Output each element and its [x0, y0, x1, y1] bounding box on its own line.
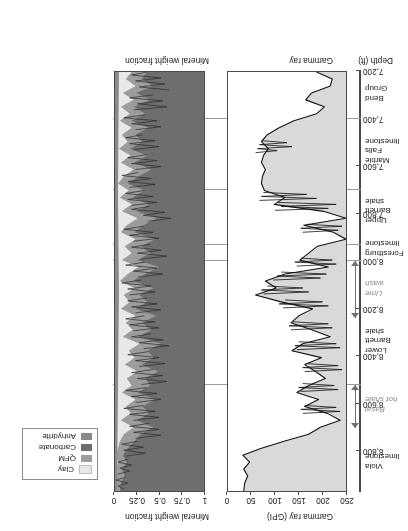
formation-label-upper-barnett-shale: Upper Barnett shale: [365, 197, 408, 226]
legend-label-clay: Clay: [58, 465, 74, 474]
arrow-head-down-icon: [352, 261, 360, 266]
formation-label-marble-falls-limestone: Marble Falls limestone: [365, 137, 408, 166]
legend-item-carbonate[interactable]: Carbonate: [28, 442, 92, 453]
legend-swatch-clay: [79, 465, 92, 474]
arrow-head-up-icon: [352, 313, 360, 318]
depth-tick: [356, 355, 361, 356]
depth-tick: [356, 165, 361, 166]
depth-tick-label: 7,400: [363, 115, 397, 124]
mineral-xtick: [204, 492, 205, 495]
bracket-stem: [355, 385, 356, 428]
mineral-xtick-label: 1: [190, 496, 220, 505]
legend-item-clay[interactable]: Clay: [28, 464, 92, 475]
formation-label-bend-group: Bend Group: [365, 84, 408, 103]
gamma-ray-xtick: [226, 492, 227, 495]
depth-tick: [356, 213, 361, 214]
arrow-head-down-icon: [352, 385, 360, 390]
legend-swatch-qfm: [81, 455, 92, 462]
formation-label-viola-limestone: Viola limestone: [365, 452, 408, 471]
interval-bracket-basal-hot-shale: [351, 385, 360, 428]
depth-tick: [356, 450, 361, 451]
gamma-ray-xtick: [274, 492, 275, 495]
bracket-stem: [355, 261, 356, 318]
formation-label-forestburg-limestone: Forestburg limestone: [365, 239, 408, 258]
annotation-label-basal-hot-shale: Basal hot shale: [365, 395, 408, 414]
gamma-ray-track: [227, 71, 347, 492]
depth-axis-title: Depth (ft): [358, 56, 393, 65]
interval-bracket-lime-wash: [351, 261, 360, 318]
mineral-axis-label: Mineral weight fraction: [125, 512, 209, 521]
formation-label-lower-barnett-shale: Lower Barnett shale: [365, 327, 408, 356]
legend-swatch-anhydrite: [81, 433, 92, 440]
depth-tick-label: 7,200: [363, 67, 397, 76]
depth-tick-label: 8,200: [363, 305, 397, 314]
legend: Clay QFM Carbonate Anhydrite: [22, 428, 98, 480]
depth-tick-label: 8,000: [363, 257, 397, 266]
depth-tick: [356, 70, 361, 71]
mineral-xtick: [136, 492, 137, 495]
mineral-xtick: [113, 492, 114, 495]
mineral-weight-fraction-track: [114, 71, 205, 492]
legend-label-qfm: QFM: [58, 454, 76, 463]
gamma-ray-track-title: Gamma ray: [289, 56, 333, 65]
gamma-ray-xtick: [298, 492, 299, 495]
gamma-ray-curve: [228, 72, 346, 491]
mineral-stacked-area: [115, 72, 204, 491]
gamma-ray-xtick-label: 250: [332, 496, 362, 505]
legend-swatch-carbonate: [81, 444, 92, 451]
gamma-ray-xtick: [346, 492, 347, 495]
gamma-ray-xtick: [250, 492, 251, 495]
mineral-track-title: Mineral weight fraction: [125, 56, 209, 65]
gamma-ray-axis-label: Gamma ray (GPI): [267, 512, 333, 521]
legend-label-carbonate: Carbonate: [39, 443, 76, 452]
mineral-xtick: [159, 492, 160, 495]
annotation-label-lime-wash: Lime wash: [365, 279, 408, 298]
gamma-ray-xtick: [322, 492, 323, 495]
arrow-head-up-icon: [352, 423, 360, 428]
legend-item-anhydrite[interactable]: Anhydrite: [28, 431, 92, 442]
legend-label-anhydrite: Anhydrite: [42, 432, 76, 441]
legend-item-qfm[interactable]: QFM: [28, 453, 92, 464]
mineral-xtick: [181, 492, 182, 495]
